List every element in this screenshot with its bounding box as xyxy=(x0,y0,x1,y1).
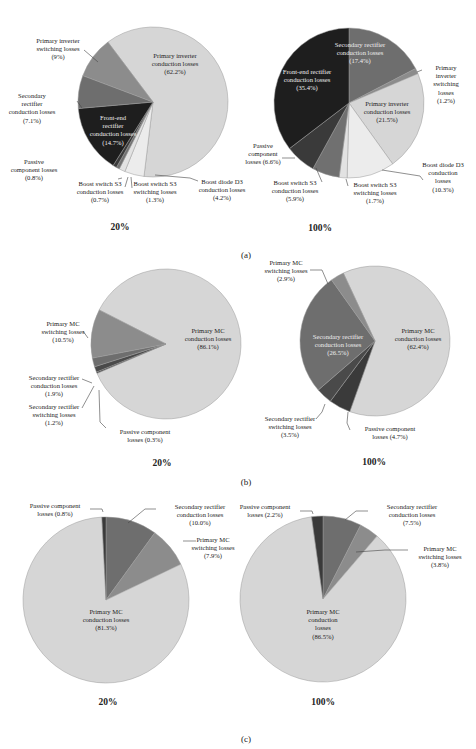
slice-label-a20-pis: Primary inverterswitching losses(9%) xyxy=(36,37,80,61)
slice-label-a100-bdc: Boost diode D3conductionlosses(10.3%) xyxy=(422,161,464,194)
slice-label-a20-pas: Passivecomponent losses(0.8%) xyxy=(11,158,58,182)
slice-label-c20-mcs: Primary MCswitching losses(7.9%) xyxy=(191,536,234,560)
panel-label: (c) xyxy=(241,734,251,744)
figure: Primary inverterconduction losses(62.2%)… xyxy=(0,0,476,749)
slice-label-c20-pas: Passive componentlosses (0.8%) xyxy=(30,502,81,518)
slice-label-a100-bsc: Boost switch S3conduction losses(5.9%) xyxy=(272,179,319,203)
slice-label-b20-mcs: Primary MCswitching losses(10.5%) xyxy=(41,320,84,344)
slice-label-a100-pis: Primaryinverterswitchinglosses(1.2%) xyxy=(433,64,459,105)
slice-label-b100-srs: Secondary rectifierswitching losses(3.5%… xyxy=(265,415,316,439)
caption-c100: 100% xyxy=(311,697,335,707)
slice-label-a20-bsc: Boost switch S3conduction losses(0.7%) xyxy=(77,180,124,204)
slice-label-b20-pas: Passive componentlosses (0.3%) xyxy=(120,428,171,444)
slice-label-b100-mcs: Primary MCswitching losses(2.9%) xyxy=(264,259,307,283)
slice-label-c100-src: Secondary rectifierconduction losses(7.5… xyxy=(387,503,438,527)
slice-label-a20-bdc: Boost diode D3conduction losses(4.2%) xyxy=(199,178,246,202)
caption-a100: 100% xyxy=(308,223,332,233)
caption-b100: 100% xyxy=(362,457,386,467)
slice-label-c20-src: Secondary rectifierconduction losses(10.… xyxy=(175,503,226,527)
panel-label: (a) xyxy=(241,250,251,260)
slice-label-c100-mcs: Primary MCswitching losses(3.8%) xyxy=(418,545,461,569)
pie-charts xyxy=(23,27,450,683)
slice-label-a20-bss: Boost switch S3switching losses(1.3%) xyxy=(133,180,177,204)
panel-label: (b) xyxy=(241,477,252,487)
caption-c20: 20% xyxy=(99,697,118,707)
slice-label-b100-pas: Passive componentlosses (4.7%) xyxy=(365,425,416,441)
slice-label-a100-bss: Boost switch S3switching losses(1.7%) xyxy=(353,181,397,205)
caption-a20: 20% xyxy=(111,222,130,232)
slice-label-b20-src: Secondary rectifierconduction losses(1.9… xyxy=(29,374,80,398)
slice-label-b20-srs: Secondary rectifierswitching losses(1.2%… xyxy=(29,403,80,427)
slice-label-c100-pas: Passive componentlosses (2.2%) xyxy=(240,503,291,519)
slice-label-a100-pas: Passivecomponentlosses (6.6%) xyxy=(245,142,281,166)
caption-b20: 20% xyxy=(153,458,172,468)
slice-label-a20-src: Secondaryrectifierconduction losses(7.1%… xyxy=(9,92,56,125)
